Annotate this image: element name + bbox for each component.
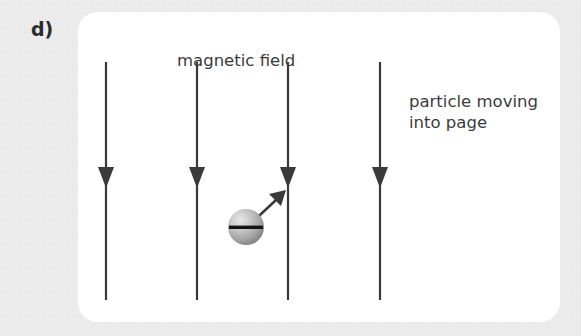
field-line-4 [372, 62, 388, 300]
field-line-1 [98, 62, 114, 300]
charged-particle [228, 209, 264, 245]
magnetic-field-diagram: magnetic field particle moving into page [0, 0, 581, 336]
particle-label-line1: particle moving [409, 92, 538, 111]
field-line-3 [280, 62, 296, 300]
field-line-2 [189, 62, 205, 300]
negative-charge-icon [229, 226, 263, 229]
field-line-2-arrowhead-icon [189, 167, 205, 188]
field-line-3-arrowhead-icon [280, 167, 296, 188]
field-line-1-arrowhead-icon [98, 167, 114, 188]
particle-label-line2: into page [409, 113, 487, 132]
magnetic-field-label: magnetic field [177, 51, 295, 70]
field-line-4-arrowhead-icon [372, 167, 388, 188]
